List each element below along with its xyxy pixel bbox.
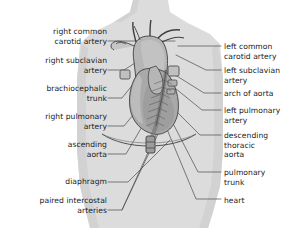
label-line: diaphragm xyxy=(21,177,107,187)
aortic-hiatus xyxy=(146,136,155,153)
label-line: artery xyxy=(21,122,107,132)
label-line: artery xyxy=(21,66,107,76)
label-line: left subclavian xyxy=(224,66,280,76)
label-line: artery xyxy=(224,76,280,86)
label-left-common-carotid-artery[interactable]: left common carotid artery xyxy=(224,42,277,61)
label-line: trunk xyxy=(21,94,107,104)
label-line: arteries xyxy=(11,206,107,216)
label-line: right subclavian xyxy=(21,56,107,66)
label-right-subclavian-artery[interactable]: right subclavian artery xyxy=(21,56,107,75)
label-left-subclavian-artery[interactable]: left subclavian artery xyxy=(224,66,280,85)
label-right-pulmonary-artery[interactable]: right pulmonary artery xyxy=(21,112,107,131)
label-arch-of-aorta[interactable]: arch of aorta xyxy=(224,89,273,99)
label-heart[interactable]: heart xyxy=(224,196,245,206)
label-descending-thoracic-aorta[interactable]: descending thoracic aorta xyxy=(224,131,268,160)
label-line: artery xyxy=(224,116,280,126)
label-line: heart xyxy=(224,196,245,206)
label-line: arch of aorta xyxy=(224,89,273,99)
label-line: ascending xyxy=(21,140,107,150)
anatomical-diagram-figure: right common carotid artery right subcla… xyxy=(0,0,297,246)
label-line: thoracic xyxy=(224,141,268,151)
label-line: pulmonary xyxy=(224,168,265,178)
label-brachiocephalic-trunk[interactable]: brachiocephalic trunk xyxy=(21,84,107,103)
label-pulmonary-trunk[interactable]: pulmonary trunk xyxy=(224,168,265,187)
label-diaphragm[interactable]: diaphragm xyxy=(21,177,107,187)
label-line: right pulmonary xyxy=(21,112,107,122)
label-left-pulmonary-artery[interactable]: left pulmonary artery xyxy=(224,106,280,125)
label-line: left pulmonary xyxy=(224,106,280,116)
label-line: aorta xyxy=(21,150,107,160)
label-line: carotid artery xyxy=(224,52,277,62)
label-line: right common xyxy=(21,27,107,37)
label-line: paired intercostal xyxy=(11,196,107,206)
label-line: left common xyxy=(224,42,277,52)
label-line: brachiocephalic xyxy=(21,84,107,94)
label-line: trunk xyxy=(224,178,265,188)
label-line: descending xyxy=(224,131,268,141)
label-line: aorta xyxy=(224,150,268,160)
label-ascending-aorta[interactable]: ascending aorta xyxy=(21,140,107,159)
label-paired-intercostal-arteries[interactable]: paired intercostal arteries xyxy=(11,196,107,215)
label-right-common-carotid-artery[interactable]: right common carotid artery xyxy=(21,27,107,46)
label-line: carotid artery xyxy=(21,37,107,47)
